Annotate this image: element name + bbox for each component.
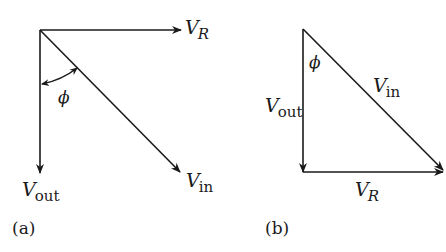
phi-label-a: ϕ — [58, 87, 70, 107]
v-r-label-a: VR — [185, 16, 209, 43]
v-out-label-b: Vout — [265, 94, 302, 121]
phi-angle-arc-a — [42, 68, 77, 84]
phi-label-b: ϕ — [309, 52, 321, 72]
phasor-diagrams: ϕ VR Vout Vin (a) ϕ Vout Vin VR (b) — [0, 0, 446, 252]
diagram-b: ϕ Vout Vin VR (b) — [265, 29, 443, 238]
v-r-label-b: VR — [355, 178, 379, 205]
caption-b: (b) — [265, 218, 289, 238]
diagram-a: ϕ VR Vout Vin (a) — [12, 16, 214, 238]
v-out-label-a: Vout — [22, 178, 59, 205]
v-in-label-b: Vin — [373, 74, 401, 101]
v-in-label-a: Vin — [186, 169, 214, 196]
caption-a: (a) — [12, 218, 35, 238]
v-in-arrow-b — [303, 29, 443, 170]
